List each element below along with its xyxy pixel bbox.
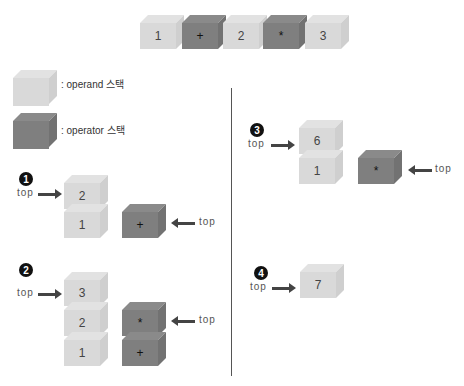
operator-top-label: top	[435, 163, 452, 174]
operator-stack-item: *	[122, 302, 166, 336]
arrow-right-icon	[272, 287, 290, 290]
arrow-left-icon	[414, 169, 432, 172]
step-4-number-badge: 4	[254, 266, 268, 280]
operator-stack-item: +	[122, 204, 166, 238]
arrow-right-icon	[38, 293, 56, 296]
arrow-left-icon	[177, 320, 195, 323]
operand-stack-item: 6	[299, 120, 343, 154]
step-1-number-badge: 1	[19, 172, 33, 186]
operand-top-label: top	[248, 138, 265, 149]
operator-top-label: top	[199, 216, 216, 227]
operand-top-label: top	[17, 187, 34, 198]
operand-stack-item: 7	[300, 264, 344, 298]
operator-stack-item: *	[358, 150, 402, 184]
arrow-right-icon	[271, 144, 289, 147]
operand-stack-item: 2	[64, 302, 108, 336]
operand-top-label: top	[250, 281, 267, 292]
operand-legend-label: : operand 스택	[61, 76, 124, 91]
operand-top-label: top	[17, 287, 34, 298]
operator-stack-item: +	[122, 332, 166, 366]
step-3-number-badge: 3	[250, 123, 264, 137]
operator-legend-label: : operator 스택	[61, 122, 125, 137]
divider-line	[231, 88, 232, 376]
operator-top-label: top	[199, 314, 216, 325]
arrow-right-icon	[38, 193, 56, 196]
arrow-left-icon	[177, 222, 195, 225]
operand-stack-item: 1	[299, 150, 343, 184]
expression-token-plus: +	[182, 15, 226, 49]
expression-token-1: 1	[140, 15, 184, 49]
operand-stack-item: 1	[64, 332, 108, 366]
expression-token-times: *	[263, 15, 307, 49]
operand-stack-item: 3	[64, 272, 108, 306]
step-2-number-badge: 2	[19, 263, 33, 277]
operand-stack-item: 1	[64, 204, 108, 238]
operator-legend-swatch	[13, 113, 57, 149]
expression-token-3: 3	[305, 15, 349, 49]
operand-legend-swatch	[13, 70, 57, 106]
expression-token-2: 2	[223, 15, 267, 49]
